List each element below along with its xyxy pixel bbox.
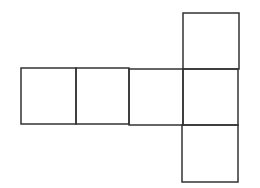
cube-face-top [183,13,239,69]
cube-net-diagram [0,0,260,188]
cube-face-row-3 [129,69,183,125]
cube-face-row-4 [183,69,238,125]
cube-face-bottom [182,125,238,182]
cube-face-row-1 [21,68,76,124]
cube-face-row-2 [76,68,129,124]
